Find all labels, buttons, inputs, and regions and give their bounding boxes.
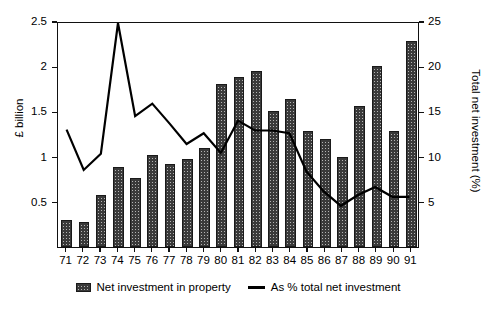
bar-81 xyxy=(234,77,245,247)
x-tick-80 xyxy=(220,248,221,252)
x-tick-71 xyxy=(65,248,66,252)
y-left-label-0.5: 0.5 xyxy=(0,197,52,209)
y-right-tick-25 xyxy=(419,21,424,22)
x-tick-90 xyxy=(393,248,394,252)
bar-82 xyxy=(251,71,262,247)
x-tick-76 xyxy=(151,248,152,252)
bar-90 xyxy=(389,131,400,247)
y-left-label-1: 1 xyxy=(0,152,52,164)
bar-88 xyxy=(354,106,365,247)
x-tick-73 xyxy=(99,248,100,252)
bar-87 xyxy=(337,157,348,247)
y-right-label-5: 5 xyxy=(428,197,434,209)
x-tick-91 xyxy=(410,248,411,252)
x-tick-87 xyxy=(341,248,342,252)
bar-series-net-investment-in-property xyxy=(58,23,418,247)
legend-item-line: As % total net investment xyxy=(248,281,401,293)
x-label-91: 91 xyxy=(398,254,422,266)
plot-area xyxy=(57,22,419,248)
bar-84 xyxy=(285,99,296,247)
x-tick-82 xyxy=(255,248,256,252)
legend-item-bar: Net investment in property xyxy=(76,281,231,293)
x-tick-88 xyxy=(358,248,359,252)
bar-76 xyxy=(147,155,158,247)
x-tick-84 xyxy=(289,248,290,252)
y-right-label-10: 10 xyxy=(428,152,441,164)
legend-label-bar: Net investment in property xyxy=(97,281,231,293)
bar-86 xyxy=(320,139,331,247)
y-left-label-1.5: 1.5 xyxy=(0,106,52,118)
bar-72 xyxy=(79,222,90,247)
y-left-label-2.5: 2.5 xyxy=(0,16,52,28)
bar-80 xyxy=(216,84,227,247)
bar-75 xyxy=(130,178,141,247)
legend-label-line: As % total net investment xyxy=(271,281,401,293)
y-right-label-20: 20 xyxy=(428,61,441,73)
bar-91 xyxy=(406,41,417,247)
legend-bar-swatch-icon xyxy=(76,283,91,292)
x-tick-78 xyxy=(186,248,187,252)
y-right-label-15: 15 xyxy=(428,106,441,118)
bar-74 xyxy=(113,167,124,247)
y-right-tick-20 xyxy=(419,67,424,68)
x-tick-81 xyxy=(237,248,238,252)
x-tick-86 xyxy=(324,248,325,252)
x-tick-85 xyxy=(306,248,307,252)
bar-85 xyxy=(303,131,314,247)
legend-line-swatch-icon xyxy=(248,286,265,289)
chart-legend: Net investment in property As % total ne… xyxy=(0,281,476,293)
y-right-tick-5 xyxy=(419,202,424,203)
y-axis-right-title: Total net investment (%) xyxy=(470,51,482,211)
x-tick-79 xyxy=(203,248,204,252)
bar-73 xyxy=(96,195,107,247)
y-left-label-2: 2 xyxy=(0,61,52,73)
x-tick-77 xyxy=(168,248,169,252)
x-tick-72 xyxy=(82,248,83,252)
y-right-tick-10 xyxy=(419,157,424,158)
y-right-label-25: 25 xyxy=(428,16,441,28)
bar-77 xyxy=(165,164,176,247)
bar-79 xyxy=(199,148,210,247)
bar-83 xyxy=(268,111,279,247)
bar-71 xyxy=(61,220,72,247)
x-tick-83 xyxy=(272,248,273,252)
y-axis-left-labels: 0.511.522.5 xyxy=(0,0,52,310)
x-tick-75 xyxy=(134,248,135,252)
bar-78 xyxy=(182,159,193,247)
x-tick-74 xyxy=(117,248,118,252)
y-right-tick-15 xyxy=(419,112,424,113)
bar-89 xyxy=(372,66,383,247)
x-tick-89 xyxy=(375,248,376,252)
